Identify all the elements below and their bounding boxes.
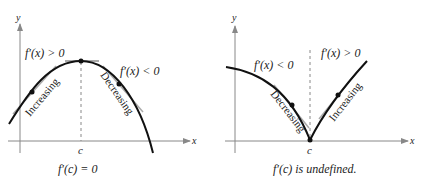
right-graph: x y f′(x) < 0 f′(x) > 0 Decreasing Incre…	[225, 12, 415, 176]
left-y-axis-label: y	[15, 12, 21, 23]
right-condition-negative: f′(x) < 0	[254, 58, 293, 72]
right-y-axis-label: y	[231, 12, 237, 23]
left-point-increasing	[30, 90, 35, 95]
left-tick-c: c	[78, 144, 83, 156]
right-tick-c: c	[307, 144, 312, 156]
critical-number-diagram: x y f′(x) > 0 f′(x) < 0 Increasing Decre…	[0, 0, 424, 184]
right-point-increasing	[336, 93, 341, 98]
left-point-peak	[79, 59, 84, 64]
right-x-axis-label: x	[409, 135, 415, 146]
left-condition-positive: f′(x) > 0	[25, 46, 64, 60]
right-trend-decreasing: Decreasing	[268, 88, 308, 135]
right-point-cusp	[308, 138, 313, 143]
left-condition-negative: f′(x) < 0	[120, 64, 159, 78]
left-graph: x y f′(x) > 0 f′(x) < 0 Increasing Decre…	[8, 12, 197, 176]
right-condition-positive: f′(x) > 0	[321, 46, 360, 60]
right-caption: f′(c) is undefined.	[273, 162, 357, 176]
left-caption: f′(c) = 0	[58, 162, 97, 176]
left-x-axis-label: x	[191, 135, 197, 146]
